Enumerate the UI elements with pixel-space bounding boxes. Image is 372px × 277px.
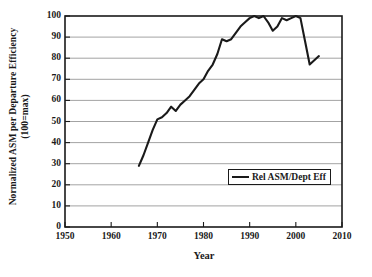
x-tick-label-2000: 2000 <box>276 231 316 241</box>
x-axis-tick-labels: 1950196019701980199020002010 <box>0 0 372 277</box>
x-tick-label-1990: 1990 <box>230 231 270 241</box>
x-tick-label-1950: 1950 <box>45 231 85 241</box>
chart-legend[interactable]: Rel ASM/Dept Eff <box>228 169 331 185</box>
chart-figure: Normalized ASM per Departure Efficiency … <box>0 0 372 277</box>
x-axis-title: Year <box>65 250 343 261</box>
legend-line-swatch-icon <box>232 172 249 182</box>
x-tick-label-1960: 1960 <box>91 231 131 241</box>
x-tick-label-1980: 1980 <box>184 231 224 241</box>
x-tick-label-1970: 1970 <box>137 231 177 241</box>
legend-entry-label: Rel ASM/Dept Eff <box>252 172 326 182</box>
x-tick-label-2010: 2010 <box>322 231 362 241</box>
